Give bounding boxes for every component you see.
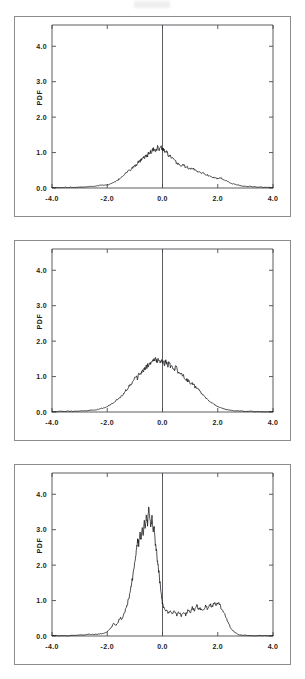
svg-text:-4.0: -4.0 [45, 643, 58, 650]
svg-text:4.0: 4.0 [268, 643, 279, 650]
svg-text:2.0: 2.0 [212, 195, 223, 202]
svg-text:4.0: 4.0 [268, 195, 279, 202]
panel-3-plot: 0.01.02.03.04.0-4.0-2.00.02.04.0 [14, 464, 291, 665]
svg-text:0.0: 0.0 [157, 419, 168, 426]
svg-text:2.0: 2.0 [212, 643, 223, 650]
svg-text:-2.0: -2.0 [101, 419, 114, 426]
svg-text:0.0: 0.0 [36, 409, 47, 416]
svg-text:0.0: 0.0 [157, 195, 168, 202]
svg-text:1.0: 1.0 [36, 149, 47, 156]
scan-smudge-artifact [134, 1, 170, 8]
panel-1-plot: 0.01.02.03.04.0-4.0-2.00.02.04.0 [14, 16, 291, 217]
plot-panel-2: 0.01.02.03.04.0-4.0-2.00.02.04.0 PDF [14, 240, 291, 441]
svg-text:4.0: 4.0 [36, 491, 47, 498]
svg-text:0.0: 0.0 [157, 643, 168, 650]
svg-text:4.0: 4.0 [268, 419, 279, 426]
svg-text:4.0: 4.0 [36, 43, 47, 50]
plot-panel-3: 0.01.02.03.04.0-4.0-2.00.02.04.0 PDF [14, 464, 291, 665]
svg-text:1.0: 1.0 [36, 373, 47, 380]
svg-text:0.0: 0.0 [36, 633, 47, 640]
svg-text:-2.0: -2.0 [101, 195, 114, 202]
svg-text:0.0: 0.0 [36, 185, 47, 192]
svg-text:4.0: 4.0 [36, 267, 47, 274]
svg-text:-4.0: -4.0 [45, 419, 58, 426]
panel-2-plot: 0.01.02.03.04.0-4.0-2.00.02.04.0 [14, 240, 291, 441]
svg-text:-4.0: -4.0 [45, 195, 58, 202]
svg-text:2.0: 2.0 [212, 419, 223, 426]
panel-1-y-axis-label: PDF [36, 75, 43, 121]
plot-panel-1: 0.01.02.03.04.0-4.0-2.00.02.04.0 PDF [14, 16, 291, 217]
svg-text:1.0: 1.0 [36, 597, 47, 604]
panel-3-y-axis-label: PDF [36, 523, 43, 569]
svg-text:-2.0: -2.0 [101, 643, 114, 650]
panel-2-y-axis-label: PDF [36, 299, 43, 345]
